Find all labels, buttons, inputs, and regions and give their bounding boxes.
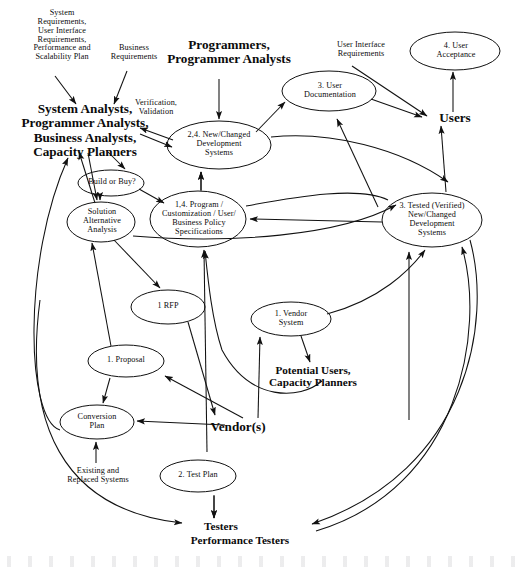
process-label-tested-systems: 3. Tested (Verified) New/Changed Develop… — [382, 202, 482, 237]
flow-tested-to-users — [441, 126, 446, 192]
entity-performance-testers: Performance Testers — [165, 534, 315, 546]
entity-testers: Testers — [190, 520, 252, 532]
process-label-solution-alternative: Solution Alternative Analysis — [68, 208, 136, 235]
process-label-user-documentation: 3. User Documentation — [284, 82, 376, 100]
flow-label-system-requirements: System Requirements, User Interface Requ… — [16, 9, 108, 62]
flow-label-existing-replaced-systems: Existing and Replaced Systems — [52, 467, 144, 485]
flow-proposal-to-solution — [92, 243, 111, 346]
flow-vendors-to-proposal — [165, 376, 243, 418]
process-label-user-acceptance: 4. User Acceptance — [412, 42, 500, 60]
process-label-new-changed-systems: 2,4. New/Changed Development Systems — [167, 131, 271, 158]
entity-programmers: Programmers, Programmer Analysts — [155, 38, 303, 67]
entity-potential-users: Potential Users, Capacity Planners — [252, 364, 374, 388]
flow-specs-long-right — [246, 193, 388, 206]
process-label-test-plan: 2. Test Plan — [162, 471, 234, 480]
process-label-conversion-plan: Conversion Plan — [62, 413, 132, 431]
entity-vendors: Vendor(s) — [200, 420, 276, 434]
flow-new-changed-to-tested — [271, 136, 448, 182]
process-label-vendor-system: 1. Vendor System — [252, 310, 330, 328]
flow-system-requirements-to-analysts — [55, 76, 76, 104]
entity-users: Users — [425, 111, 485, 125]
process-label-rfp: 1 RFP — [132, 302, 204, 311]
scan-artifact-strip — [0, 556, 515, 567]
flow-vendor-system-to-tested — [327, 250, 425, 314]
entity-system-analysts: System Analysts, Programmer Analysts, Bu… — [10, 102, 160, 159]
process-label-specifications: 1,4. Program / Customization / User/ Bus… — [150, 201, 248, 236]
flow-testers-to-tested — [316, 247, 470, 531]
process-label-proposal: 1. Proposal — [89, 356, 163, 365]
flow-vendor-system-to-potential-users — [301, 336, 310, 362]
flow-solution-to-rfp — [114, 240, 160, 288]
flow-proposal-to-conversion — [103, 378, 110, 403]
process-label-build-or-buy: Build or Buy? — [79, 178, 145, 187]
flow-label-user-interface-requirements: User Interface Requirements — [323, 41, 399, 59]
flow-new-changed-to-user-doc — [256, 102, 285, 132]
